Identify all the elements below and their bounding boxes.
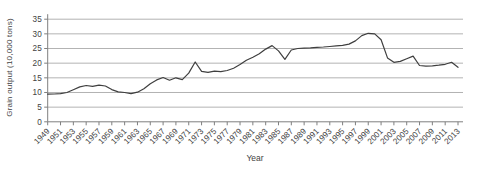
y-tick-label: 30 bbox=[33, 30, 43, 39]
y-axis-title: Grain output (10,000 tons) bbox=[5, 13, 16, 123]
x-tick-label: 2013 bbox=[443, 127, 463, 147]
y-tick-label: 5 bbox=[37, 103, 42, 112]
grain-output-chart: 0510152025303519491951195319551957195919… bbox=[0, 0, 477, 174]
x-axis-title: Year bbox=[155, 153, 355, 163]
y-tick-label: 20 bbox=[33, 59, 43, 68]
grain-output-series-line bbox=[48, 33, 458, 94]
y-tick-label: 0 bbox=[37, 118, 42, 127]
y-tick-label: 25 bbox=[33, 44, 43, 53]
y-tick-label: 10 bbox=[33, 88, 43, 97]
y-tick-label: 35 bbox=[33, 15, 43, 24]
chart-canvas: 0510152025303519491951195319551957195919… bbox=[0, 0, 477, 174]
y-tick-label: 15 bbox=[33, 74, 43, 83]
